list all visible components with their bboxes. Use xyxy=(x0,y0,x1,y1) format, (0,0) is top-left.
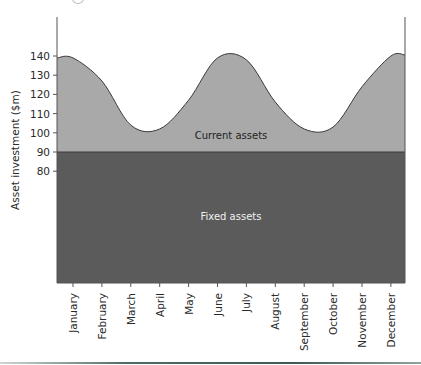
page-bottom-rule xyxy=(0,362,421,364)
y-tick-label: 110 xyxy=(30,108,50,120)
x-tick-label: December xyxy=(385,292,397,347)
x-tick-label: November xyxy=(356,292,368,347)
x-tick-label: July xyxy=(240,293,252,313)
x-tick-label: February xyxy=(96,293,108,340)
x-tick-label: May xyxy=(183,293,195,315)
x-tick-label: March xyxy=(125,293,137,325)
y-tick-label: 90 xyxy=(37,146,50,158)
x-axis-ticks: JanuaryFebruaryMarchAprilMayJuneJulyAugu… xyxy=(67,283,397,351)
x-tick-label: October xyxy=(327,292,339,335)
y-axis-title: Asset investment ($m) xyxy=(9,90,21,210)
x-tick-label: September xyxy=(298,292,310,351)
y-tick-label: 100 xyxy=(30,127,50,139)
y-tick-label: 140 xyxy=(30,50,50,62)
y-tick-label: 120 xyxy=(30,88,50,100)
y-tick-label: 80 xyxy=(37,165,50,177)
x-tick-label: August xyxy=(269,293,281,330)
y-axis-ticks: 8090100110120130140 xyxy=(30,50,57,177)
y-tick-label: 130 xyxy=(30,69,50,81)
fixed-assets-label: Fixed assets xyxy=(201,211,262,222)
x-tick-label: June xyxy=(212,293,224,317)
asset-investment-chart: 8090100110120130140 JanuaryFebruaryMarch… xyxy=(0,0,421,365)
x-tick-label: April xyxy=(154,293,166,317)
x-tick-label: January xyxy=(67,293,79,334)
current-assets-label: Current assets xyxy=(195,130,268,141)
